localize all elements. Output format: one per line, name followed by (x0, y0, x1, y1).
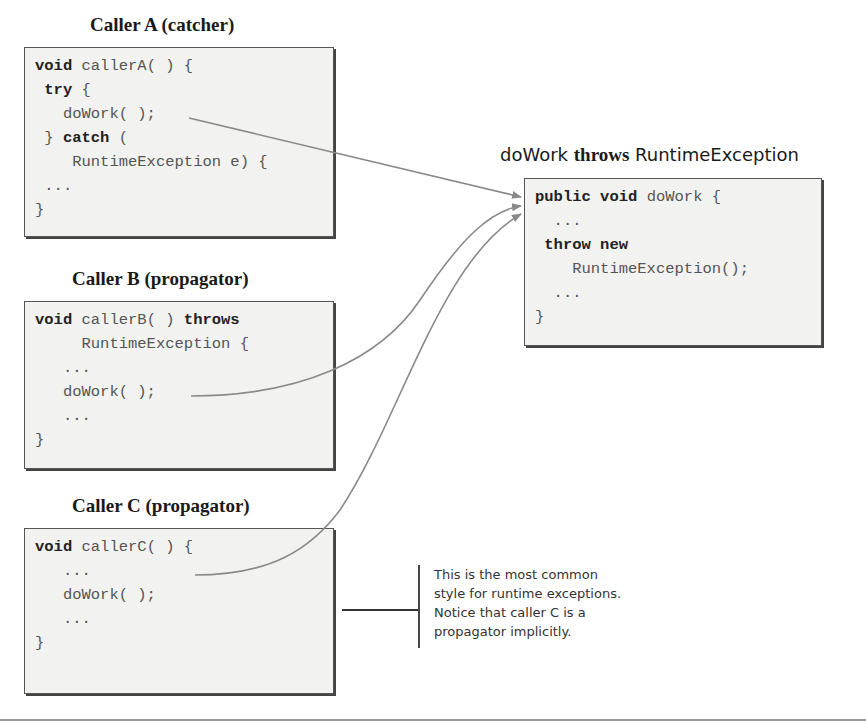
code-line: } (535, 305, 811, 329)
code-text: } (535, 308, 544, 326)
code-keyword: catch (63, 129, 110, 147)
note-line: This is the most common (434, 565, 621, 584)
code-text: ... (35, 177, 72, 195)
code-text: ... (35, 407, 91, 425)
caller-a-code: void callerA( ) { try { doWork( ); } cat… (35, 54, 323, 222)
code-line: try { (35, 78, 323, 102)
code-keyword: public void (535, 188, 637, 206)
code-text: doWork( ); (35, 105, 156, 123)
code-text: } (35, 431, 44, 449)
code-keyword: throw new (544, 236, 628, 254)
code-line: ... (535, 281, 811, 305)
code-text: doWork { (637, 188, 721, 206)
code-text: ... (35, 562, 91, 580)
caller-b-code: void callerB( ) throws RuntimeException … (35, 308, 323, 452)
code-line: doWork( ); (35, 102, 323, 126)
code-text: doWork( ); (35, 383, 156, 401)
code-text: ... (535, 212, 582, 230)
note-line: propagator implicitly. (434, 622, 621, 641)
code-keyword: try (44, 81, 72, 99)
code-line: ... (35, 356, 323, 380)
caller-a-code-box: void callerA( ) { try { doWork( ); } cat… (24, 47, 334, 237)
caller-a-title: Caller A (catcher) (90, 14, 234, 36)
code-text: RuntimeException { (35, 335, 249, 353)
caller-c-code-box: void callerC( ) { ... doWork( ); ...} (24, 528, 334, 694)
code-text: callerA( ) { (72, 57, 193, 75)
code-line: void callerA( ) { (35, 54, 323, 78)
code-line: ... (35, 174, 323, 198)
code-text: ... (35, 359, 91, 377)
code-line: ... (35, 559, 323, 583)
do-work-code-box: public void doWork { ... throw new Runti… (524, 178, 822, 346)
code-line: } (35, 198, 323, 222)
code-line: } (35, 428, 323, 452)
code-line: RuntimeException(); (535, 257, 811, 281)
code-text: doWork( ); (35, 586, 156, 604)
code-line: doWork( ); (35, 380, 323, 404)
code-keyword: void (35, 57, 72, 75)
code-text: } (35, 129, 63, 147)
code-line: ... (535, 209, 811, 233)
code-line: throw new (535, 233, 811, 257)
caller-c-title: Caller C (propagator) (72, 495, 250, 517)
bottom-divider (0, 719, 866, 721)
annotation-note: This is the most common style for runtim… (426, 565, 621, 641)
caller-b-title: Caller B (propagator) (72, 268, 249, 290)
code-line: doWork( ); (35, 583, 323, 607)
do-work-title: doWork throws RuntimeException (500, 144, 799, 166)
code-line: public void doWork { (535, 185, 811, 209)
code-keyword: void (35, 538, 72, 556)
do-work-title-exception: RuntimeException (635, 144, 799, 165)
code-line: } (35, 631, 323, 655)
code-text: callerC( ) { (72, 538, 193, 556)
code-line: RuntimeException { (35, 332, 323, 356)
code-text (535, 236, 544, 254)
code-line: void callerC( ) { (35, 535, 323, 559)
code-keyword: throws (184, 311, 240, 329)
code-text: ... (35, 610, 91, 628)
code-text: } (35, 634, 44, 652)
do-work-title-throws: throws (574, 144, 630, 165)
note-line: style for runtime exceptions. (434, 584, 621, 603)
code-text: { (72, 81, 91, 99)
code-text: RuntimeException(); (535, 260, 749, 278)
code-text: callerB( ) (72, 311, 184, 329)
caller-c-code: void callerC( ) { ... doWork( ); ...} (35, 535, 323, 655)
code-line: ... (35, 607, 323, 631)
code-text: ( (109, 129, 128, 147)
code-line: void callerB( ) throws (35, 308, 323, 332)
do-work-title-method: doWork (500, 144, 568, 165)
note-line: Notice that caller C is a (434, 603, 621, 622)
code-line: RuntimeException e) { (35, 150, 323, 174)
code-line: ... (35, 404, 323, 428)
code-line: } catch ( (35, 126, 323, 150)
code-text: ... (535, 284, 582, 302)
code-text: } (35, 201, 44, 219)
code-text (35, 81, 44, 99)
do-work-code: public void doWork { ... throw new Runti… (535, 185, 811, 329)
code-keyword: void (35, 311, 72, 329)
caller-b-code-box: void callerB( ) throws RuntimeException … (24, 301, 334, 469)
code-text: RuntimeException e) { (35, 153, 268, 171)
